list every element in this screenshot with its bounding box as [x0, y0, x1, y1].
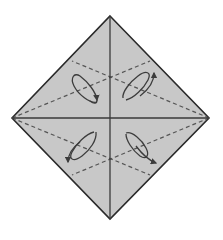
- diagram-canvas: [0, 0, 223, 240]
- origami-diagram: [0, 0, 223, 240]
- crease-lines: [12, 16, 209, 219]
